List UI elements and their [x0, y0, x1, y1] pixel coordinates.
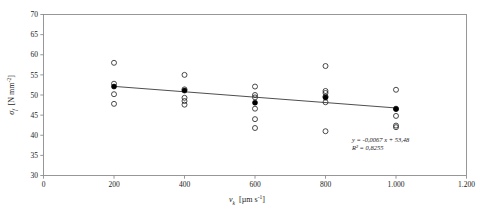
regression-annotation: y = -0,0067 x + 53,48R² = 0,8255	[351, 136, 410, 151]
data-point-mean	[394, 107, 399, 112]
data-point-open	[323, 64, 328, 69]
x-axis-ticks: 02004006008001.0001.200	[42, 176, 476, 190]
data-point-open	[253, 126, 258, 131]
data-point-open	[323, 129, 328, 134]
data-point-open	[253, 117, 258, 122]
data-point-open	[253, 106, 258, 111]
x-tick-label: 1.200	[458, 180, 475, 189]
data-point-open	[182, 72, 187, 77]
x-tick-label: 600	[249, 180, 261, 189]
x-axis-title: vk [µm s-1]	[229, 194, 265, 206]
data-point-open	[394, 113, 399, 118]
x-tick-label: 800	[320, 180, 332, 189]
y-tick-label: 70	[31, 10, 39, 19]
y-tick-label: 35	[31, 151, 39, 160]
x-tick-label: 400	[179, 180, 191, 189]
y-axis-ticks: 303540455055606570	[31, 10, 44, 180]
scatter-chart-figure: 02004006008001.0001.200 3035404550556065…	[0, 0, 491, 211]
data-point-mean	[323, 95, 328, 100]
regression-equation: y = -0,0067 x + 53,48	[351, 136, 410, 143]
chart-canvas: 02004006008001.0001.200 3035404550556065…	[0, 0, 491, 211]
data-point-open	[112, 101, 117, 106]
x-tick-label: 0	[42, 180, 46, 189]
y-axis-title: σf [N mm-2]	[6, 75, 18, 115]
data-point-mean	[112, 84, 117, 89]
data-point-open	[394, 87, 399, 92]
regression-r-squared: R² = 0,8255	[351, 144, 384, 151]
data-point-open	[112, 60, 117, 65]
y-tick-label: 55	[31, 71, 39, 80]
data-point-mean	[182, 88, 187, 93]
x-tick-label: 200	[108, 180, 120, 189]
x-axis-label: vk [µm s-1]	[229, 194, 265, 206]
data-point-mean	[253, 100, 258, 105]
x-tick-label: 1.000	[388, 180, 405, 189]
y-axis-label: σf [N mm-2]	[6, 75, 18, 115]
data-point-open	[253, 84, 258, 89]
y-tick-label: 30	[31, 171, 39, 180]
data-point-open	[182, 102, 187, 107]
y-tick-label: 40	[31, 131, 39, 140]
y-tick-label: 50	[31, 91, 39, 100]
y-tick-label: 60	[31, 50, 39, 59]
y-tick-label: 65	[31, 30, 39, 39]
y-tick-label: 45	[31, 111, 39, 120]
data-point-open	[112, 92, 117, 97]
